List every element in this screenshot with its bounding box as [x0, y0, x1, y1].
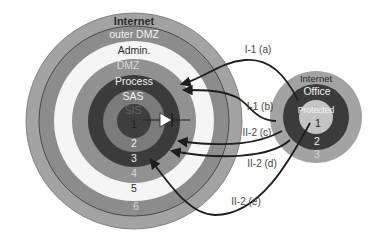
flow-label-i1a: I-1 (a)	[245, 44, 272, 55]
level-2: 2	[131, 137, 137, 149]
remote-level-2: 2	[314, 135, 320, 147]
level-5: 5	[131, 182, 137, 194]
level-1: 1	[131, 118, 137, 130]
label-sas: SAS	[122, 90, 143, 102]
label-admin: Admin.	[118, 44, 151, 56]
zone-diagram: Internet outer DMZ Admin. DMZ Process SA…	[0, 0, 386, 239]
flow-label-ii2e: II-2 (e)	[231, 196, 260, 207]
flow-label-i1b: I-1 (b)	[247, 101, 274, 112]
level-4: 4	[131, 167, 137, 179]
label-sis: SIS	[125, 104, 142, 116]
label-process: Process	[115, 75, 153, 87]
remote-level-1: 1	[315, 117, 321, 129]
remote-label-protected: Protected	[298, 105, 335, 115]
remote-label-internet: Internet	[300, 73, 333, 84]
remote-level-3: 3	[314, 148, 320, 160]
level-6: 6	[133, 200, 139, 212]
label-dmz: DMZ	[117, 59, 140, 71]
label-outer-dmz: outer DMZ	[109, 28, 159, 40]
flow-label-ii2c: II-2 (c)	[243, 127, 272, 138]
flow-label-ii2d: II-2 (d)	[247, 158, 276, 169]
level-3: 3	[131, 152, 137, 164]
remote-label-office: Office	[303, 85, 330, 97]
label-internet: Internet	[114, 15, 155, 27]
